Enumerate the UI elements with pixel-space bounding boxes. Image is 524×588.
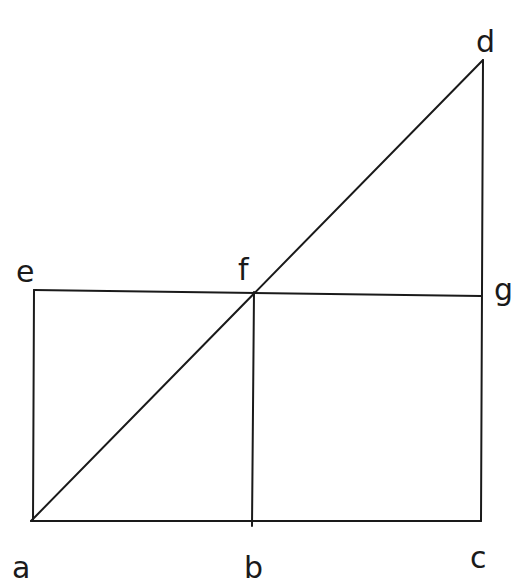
segment-cd	[481, 60, 483, 521]
segment-ae	[33, 290, 34, 521]
point-label-a: a	[12, 550, 30, 585]
point-label-e: e	[16, 254, 34, 289]
geometric-diagram: a b c d e f g	[0, 0, 524, 588]
point-label-g: g	[494, 272, 513, 307]
point-label-d: d	[476, 24, 495, 59]
point-label-f: f	[238, 252, 250, 287]
segment-bf	[252, 292, 254, 526]
point-label-b: b	[244, 550, 263, 585]
point-label-c: c	[470, 540, 487, 575]
